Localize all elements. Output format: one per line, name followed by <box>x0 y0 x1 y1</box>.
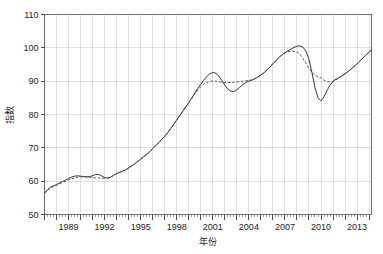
gridlines <box>45 15 372 215</box>
line-chart: 5060708090100110198919921995199820012004… <box>0 0 383 254</box>
y-tick-label: 50 <box>28 210 38 220</box>
y-tick-label: 70 <box>28 143 38 153</box>
x-tick-label: 2013 <box>347 222 367 232</box>
x-tick-label: 2007 <box>275 222 295 232</box>
series-line-actual <box>45 46 372 194</box>
y-tick-label: 80 <box>28 110 38 120</box>
x-tick-label: 1998 <box>167 222 187 232</box>
x-tick-label: 2004 <box>239 222 259 232</box>
chart-canvas: 5060708090100110198919921995199820012004… <box>0 0 383 254</box>
series-line-trend <box>45 50 372 193</box>
x-tick-label: 2010 <box>311 222 331 232</box>
x-tick-label: 1989 <box>59 222 79 232</box>
x-axis: 198919921995199820012004200720102013 <box>45 215 370 232</box>
y-tick-label: 110 <box>24 10 38 20</box>
x-tick-label: 1995 <box>131 222 151 232</box>
y-tick-label: 100 <box>23 43 38 53</box>
y-axis-title: 指数 <box>4 106 15 124</box>
x-tick-label: 1992 <box>95 222 115 232</box>
x-tick-label: 2001 <box>203 222 223 232</box>
data-series-group <box>45 46 372 194</box>
y-tick-label: 60 <box>28 176 38 186</box>
y-tick-label: 90 <box>28 76 38 86</box>
x-axis-title: 年份 <box>199 236 217 247</box>
y-axis: 5060708090100110 <box>23 10 44 220</box>
